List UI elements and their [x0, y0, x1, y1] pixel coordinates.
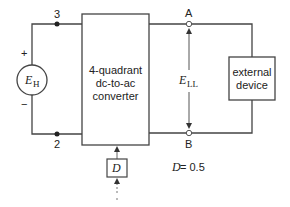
source-subscript: H — [33, 79, 40, 89]
terminal-a — [186, 21, 191, 26]
device-line2: device — [236, 79, 268, 91]
converter-line1: 4-quadrant — [89, 64, 142, 76]
node-2-label: 2 — [54, 138, 60, 150]
ell-symbol: E — [178, 73, 187, 87]
terminal-a-label: A — [185, 7, 193, 19]
ell-subscript: LL — [187, 79, 198, 89]
external-device-box: external device — [229, 57, 275, 100]
node-3-label: 3 — [54, 8, 60, 20]
node-2-dot — [55, 132, 60, 137]
annotation-value: = 0.5 — [180, 161, 205, 173]
circuit-diagram: E H + − 3 2 4-quadrant dc-to-ac converte… — [0, 0, 290, 207]
source-symbol: E — [24, 73, 33, 87]
converter-line3: converter — [93, 90, 139, 102]
terminal-b-label: B — [185, 138, 192, 150]
minus-sign: − — [21, 98, 27, 110]
device-line1: external — [232, 66, 271, 78]
converter-box: 4-quadrant dc-to-ac converter — [82, 14, 149, 145]
terminal-b — [186, 130, 191, 135]
node-3-dot — [55, 22, 60, 27]
duty-cycle-control: D — [107, 149, 127, 199]
ell-voltage-arrow: E LL — [178, 31, 198, 126]
converter-line2: dc-to-ac — [96, 77, 136, 89]
d-box-symbol: D — [111, 161, 121, 175]
duty-cycle-annotation: D = 0.5 — [171, 160, 205, 174]
plus-sign: + — [21, 47, 27, 59]
